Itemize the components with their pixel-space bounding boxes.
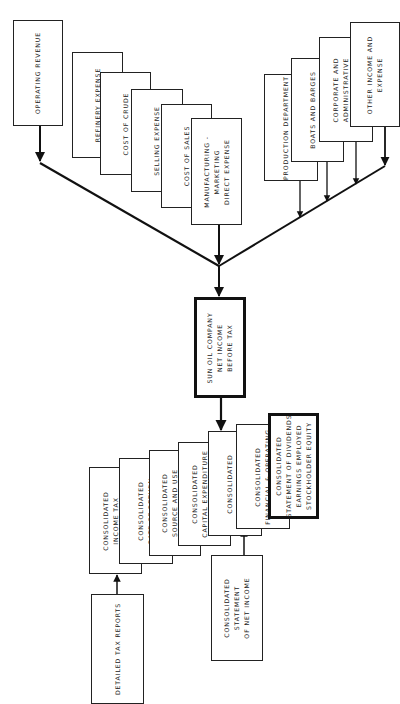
box-label: SUN OIL COMPANY NET INCOME BEFORE TAX — [205, 312, 235, 383]
label-line: COST OF CRUDE — [121, 92, 131, 155]
box-label: MANUFACTURING - MARKETING DIRECT EXPENSE — [202, 136, 232, 208]
label-line: BEFORE TAX — [225, 312, 235, 383]
box-label: CONSOLIDATED STATEMENT OF NET INCOME — [222, 577, 252, 638]
label-line: CONSOLIDATED — [274, 414, 284, 517]
detailed-tax-reports-box: DETAILED TAX REPORTS — [91, 594, 144, 704]
label-line: DETAILED TAX REPORTS — [113, 603, 123, 695]
other-income-box: OTHER INCOME AND EXPENSE — [350, 22, 400, 127]
label-line: CONSOLIDATED — [222, 577, 232, 638]
label-line: CONSOLIDATED — [136, 478, 146, 544]
label-line: EXPENSE — [375, 35, 385, 113]
label-line: MARKETING — [212, 136, 222, 208]
box-label: DETAILED TAX REPORTS — [113, 603, 123, 695]
box-label: COST OF SALES — [182, 126, 192, 187]
label-line: CONSOLIDATED — [190, 450, 200, 538]
box-label: CONSOLIDATED STATEMENT OF DIVIDENDS EARN… — [274, 414, 314, 517]
box-label: COST OF CRUDE — [121, 92, 131, 155]
net-income-before-tax-box: SUN OIL COMPANY NET INCOME BEFORE TAX — [194, 297, 246, 398]
label-line: CONSOLIDATED — [253, 429, 263, 525]
label-line: BOATS AND BARGES — [308, 71, 318, 149]
statement-of-dividends-box: CONSOLIDATED STATEMENT OF DIVIDENDS EARN… — [268, 413, 319, 519]
operating-revenue-box: OPERATING REVENUE — [13, 20, 63, 126]
box-label: OPERATING REVENUE — [33, 32, 43, 114]
label-line: COST OF SALES — [182, 126, 192, 187]
label-line: OTHER INCOME AND — [365, 35, 375, 113]
label-line: NET INCOME — [215, 312, 225, 383]
label-line: SUN OIL COMPANY — [205, 312, 215, 383]
manufacturing-marketing-box: MANUFACTURING - MARKETING DIRECT EXPENSE — [191, 118, 242, 225]
box-label: OTHER INCOME AND EXPENSE — [365, 35, 385, 113]
label-line: EARNINGS EMPLOYED — [294, 414, 304, 517]
label-line: CORPORATE AND — [331, 57, 341, 122]
label-line: STATEMENT — [232, 577, 242, 638]
label-line: CONSOLIDATED — [160, 469, 170, 537]
label-line: CONSOLIDATED — [225, 439, 235, 527]
label-line: CONSOLIDATED — [101, 491, 111, 551]
label-line: OPERATING REVENUE — [33, 32, 43, 114]
label-line: STOCKHOLDER EQUITY — [304, 414, 314, 517]
statement-of-net-income-box: CONSOLIDATED STATEMENT OF NET INCOME — [211, 555, 263, 661]
label-line: OF NET INCOME — [242, 577, 252, 638]
label-line: STATEMENT OF DIVIDENDS — [284, 414, 294, 517]
label-line: MANUFACTURING - — [202, 136, 212, 208]
label-line: PRODUCTION DEPARTMENT — [281, 75, 291, 179]
label-line: DIRECT EXPENSE — [222, 136, 232, 208]
